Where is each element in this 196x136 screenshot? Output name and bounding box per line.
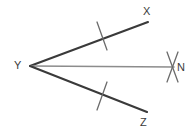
ray-yn (30, 66, 174, 67)
tick-mark-yx-icon (97, 22, 107, 50)
point-label-x: X (143, 6, 150, 17)
ray-yz (30, 66, 147, 112)
point-label-n: N (177, 62, 185, 73)
geometry-figure: X Y N Z (0, 0, 196, 136)
ray-yx (30, 22, 148, 66)
point-label-z: Z (140, 117, 147, 128)
point-label-y: Y (14, 60, 21, 71)
geometry-canvas (0, 0, 196, 136)
